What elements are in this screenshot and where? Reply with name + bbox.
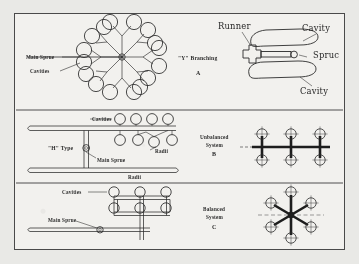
panel-letter-b: B [212,151,216,157]
panel-letter-c: C [212,224,217,230]
label-cavity-top: Cavity [302,23,330,33]
label-runner: Runner [218,21,251,31]
panel-letter-a: A [196,70,201,76]
label-radii-h: Radii [155,148,168,154]
label-cavities-bottom: Cavities [62,189,81,195]
caption-unbalanced-line2: System [206,142,223,148]
caption-balanced-line1: Balanced [203,206,225,212]
caption-unbalanced-line1: Unbalanced [200,134,229,140]
caption-y-branching: "Y" Branching [178,55,217,61]
label-cavities-h: Cavities [92,116,111,122]
label-cavities-a: Cavities [30,68,49,74]
label-main-sprue-bottom: Main Sprue [48,217,76,223]
figure-frame [14,13,345,250]
label-main-sprue-a: Main Sprue [26,54,54,60]
caption-balanced-line2: System [206,214,223,220]
label-cavity-bottom: Cavity [300,86,328,96]
label-sprue-right: Spruc [313,50,339,60]
caption-h-type: "H" Type [48,145,73,151]
label-main-sprue-h: Main Sprue [97,157,125,163]
label-radii-bottom: Radii [128,174,141,180]
